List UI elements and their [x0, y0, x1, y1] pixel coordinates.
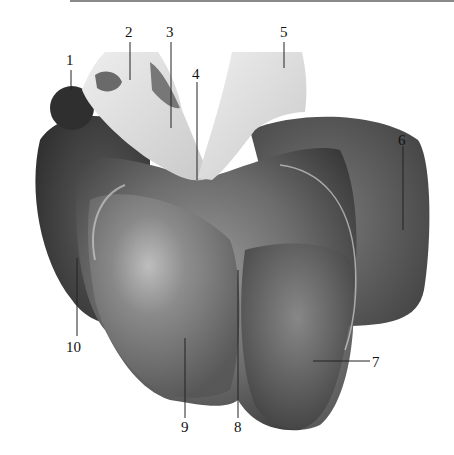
label-4: 4: [192, 66, 200, 82]
label-2: 2: [125, 24, 133, 40]
label-6: 6: [398, 132, 406, 148]
liver-illustration: 1 2 3 4 5 6 7 8 9 10: [0, 0, 454, 455]
anatomical-figure: 1 2 3 4 5 6 7 8 9 10: [0, 0, 454, 455]
label-5: 5: [280, 24, 288, 40]
label-7: 7: [372, 354, 380, 370]
label-1: 1: [66, 52, 74, 68]
label-3: 3: [166, 24, 174, 40]
label-8: 8: [234, 419, 242, 435]
label-9: 9: [181, 419, 189, 435]
lower-right-lobe: [241, 243, 354, 429]
label-10: 10: [66, 339, 81, 355]
